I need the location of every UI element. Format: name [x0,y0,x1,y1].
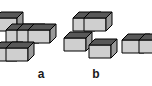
assembly-b [64,12,117,58]
cube-figure-panel: a b [0,0,152,86]
cube-front-face [28,30,50,43]
cube-front-face [89,45,111,58]
unit-cube [64,32,92,51]
unit-cube [84,12,112,31]
assembly-a [0,12,56,61]
unit-cube [89,39,117,58]
cube-front-face [84,18,106,31]
figure-label-b: b [86,68,106,80]
unit-cube [6,42,34,61]
assembly-c-partial [122,34,152,53]
unit-cube [28,24,56,43]
cube-illustration-canvas [0,0,152,86]
cube-front-face [64,38,86,51]
cube-front-face [139,40,152,53]
figure-label-a: a [31,68,51,80]
cube-front-face [6,48,28,61]
